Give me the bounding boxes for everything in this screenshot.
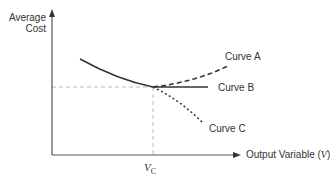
y-axis-label-line2: Cost	[0, 23, 46, 34]
vc-tick-sub: C	[151, 167, 156, 176]
vc-tick-label: VC	[144, 162, 156, 177]
y-axis-arrow-icon	[49, 9, 55, 17]
x-axis-label: Output Variable (V)	[246, 149, 330, 160]
curve-c-label: Curve C	[209, 123, 246, 134]
curve-a-label: Curve A	[225, 51, 261, 62]
y-axis-label-line1: Average	[0, 12, 46, 23]
y-axis-label: Average Cost	[0, 12, 46, 34]
x-axis-label-prefix: Output Variable (	[246, 149, 321, 160]
average-cost-curve	[80, 59, 153, 87]
vc-tick-var: V	[144, 161, 151, 173]
curve-b-label: Curve B	[218, 82, 254, 93]
x-axis-arrow-icon	[233, 152, 241, 158]
curve-c-line	[153, 87, 202, 122]
curve-a-line	[153, 66, 228, 87]
